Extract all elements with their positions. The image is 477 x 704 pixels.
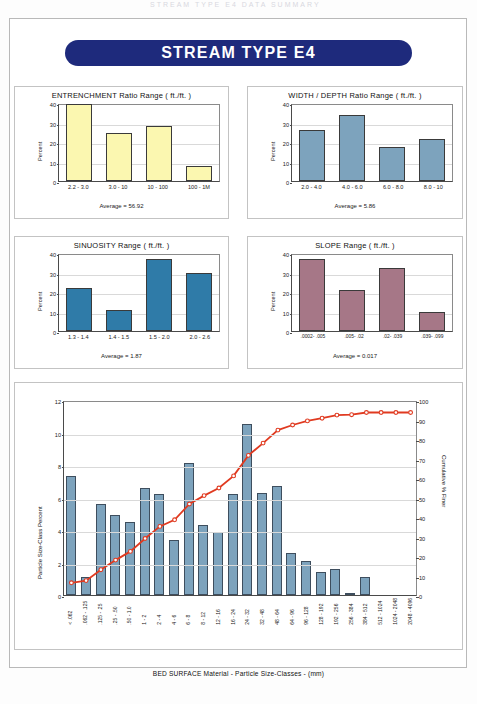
x-axis-tick-label: .25 - .50 bbox=[112, 598, 118, 625]
x-axis-tick-label: 384 - 512 bbox=[362, 598, 368, 625]
y-axis-tick bbox=[62, 500, 65, 501]
y2-axis-tick bbox=[416, 402, 419, 403]
y2-axis-tick bbox=[416, 480, 419, 481]
x-label-cell: 8 - 12 bbox=[196, 598, 211, 625]
bed-surface-x-labels: < .062.062 - .125.125 - .25.25 - .50.50 … bbox=[63, 598, 417, 625]
bar-group bbox=[59, 255, 219, 331]
chart-panel-entrenchment: ENTRENCHMENT Ratio Range ( ft./ft. )0102… bbox=[14, 86, 229, 219]
x-axis-tick-label: 8 - 12 bbox=[200, 598, 206, 625]
y2-axis-tick bbox=[416, 461, 419, 462]
x-axis-tick-label: 1 - 2 bbox=[141, 598, 147, 625]
bar bbox=[106, 310, 132, 331]
x-label-cell: 1024 - 2048 bbox=[388, 598, 403, 625]
x-axis-tick-label: 100 - 1M bbox=[188, 184, 210, 190]
y-axis-title: Percent bbox=[37, 142, 43, 161]
y-axis-tick bbox=[62, 467, 65, 468]
bar bbox=[146, 126, 172, 181]
average-label: Average = 56.92 bbox=[15, 203, 228, 209]
chart-title: ENTRENCHMENT Ratio Range ( ft./ft. ) bbox=[15, 91, 228, 100]
chart-panel-bed-surface: 0246810120102030405060708090100 < .062.0… bbox=[14, 382, 463, 650]
y-axis-tick-label: 20 bbox=[283, 141, 289, 147]
x-axis-tick-label: 3.0 - 10 bbox=[108, 184, 127, 190]
y2-axis-tick-label: 20 bbox=[419, 555, 425, 561]
grid-line bbox=[64, 532, 416, 533]
grid-line bbox=[64, 500, 416, 501]
chart-title: SINUOSITY Range ( ft./ft. ) bbox=[15, 241, 228, 250]
x-label-cell: 32 - 48 bbox=[255, 598, 270, 625]
chart-panel-sinuosity: SINUOSITY Range ( ft./ft. )010203040Perc… bbox=[14, 236, 229, 369]
y2-axis-tick bbox=[416, 578, 419, 579]
x-label-cell: 12 - 16 bbox=[211, 598, 226, 625]
bar bbox=[379, 268, 405, 331]
y-axis-title: Percent bbox=[270, 292, 276, 311]
y2-axis-tick bbox=[416, 558, 419, 559]
y-axis-tick-label: 40 bbox=[50, 102, 56, 108]
stream-type-banner: STREAM TYPE E4 bbox=[65, 40, 412, 66]
x-axis-tick-label: 24 - 32 bbox=[244, 598, 250, 625]
x-label-cell: .125 - .25 bbox=[93, 598, 108, 625]
bar bbox=[299, 130, 325, 181]
x-axis-tick-label: 32 - 48 bbox=[259, 598, 265, 625]
x-label-cell: 1 - 2 bbox=[137, 598, 152, 625]
grid-line bbox=[64, 435, 416, 436]
page-title: STREAM TYPE E4 bbox=[161, 44, 316, 62]
x-axis-tick-label: 4 - 6 bbox=[171, 598, 177, 625]
x-axis-tick-label: 6.0 - 8.0 bbox=[383, 184, 404, 190]
y2-axis-tick-label: 90 bbox=[419, 419, 425, 425]
x-axis-tick-label: 8.0 - 10 bbox=[424, 184, 443, 190]
x-axis-tick-label: 12 - 16 bbox=[215, 598, 221, 625]
y-axis-tick-label: 40 bbox=[283, 102, 289, 108]
bar bbox=[339, 115, 365, 181]
y2-axis-tick bbox=[416, 539, 419, 540]
y2-axis-tick-label: 40 bbox=[419, 516, 425, 522]
x-axis-labels: .0002- .005.005- .02.02- .039.039- .099 bbox=[291, 334, 453, 339]
y-axis-tick-label: 12 bbox=[55, 399, 61, 405]
y-axis-title: Percent bbox=[37, 292, 43, 311]
x-axis-tick-label: 10 - 100 bbox=[147, 184, 168, 190]
x-axis-tick-label: 1024 - 2048 bbox=[392, 598, 398, 625]
x-axis-tick-label: 256 - 384 bbox=[348, 598, 354, 625]
x-axis-tick-label: 2.2 - 3.0 bbox=[68, 184, 89, 190]
x-axis-tick-label: .039- .099 bbox=[421, 334, 443, 339]
bed-surface-x-axis-title: BED SURFACE Material - Particle Size-Cla… bbox=[15, 670, 462, 677]
x-axis-tick-label: 2.0 - 4.0 bbox=[301, 184, 322, 190]
bar bbox=[339, 290, 365, 331]
x-label-cell: 192 - 256 bbox=[329, 598, 344, 625]
y2-axis-tick-label: 80 bbox=[419, 438, 425, 444]
bar bbox=[419, 312, 445, 331]
y-axis-tick-label: 30 bbox=[50, 272, 56, 278]
y-axis-tick-label: 10 bbox=[283, 161, 289, 167]
x-axis-tick-label: 4.0 - 6.0 bbox=[342, 184, 363, 190]
bar bbox=[186, 166, 212, 181]
bar bbox=[186, 273, 212, 332]
x-label-cell: .25 - .50 bbox=[107, 598, 122, 625]
x-axis-tick-label: 1.4 - 1.5 bbox=[108, 334, 129, 340]
bed-surface-y-axis-title: Particle Size-Class Percent bbox=[37, 506, 43, 579]
y2-axis-tick-label: 0 bbox=[419, 594, 422, 600]
y2-axis-tick-label: 10 bbox=[419, 575, 425, 581]
x-label-cell: 16 - 24 bbox=[225, 598, 240, 625]
x-label-cell: 512 - 1024 bbox=[373, 598, 388, 625]
chart-panel-width-depth: WIDTH / DEPTH Ratio Range ( ft./ft. )010… bbox=[247, 86, 463, 219]
bar bbox=[419, 139, 445, 181]
y-axis-tick-label: 20 bbox=[50, 291, 56, 297]
y2-axis-tick bbox=[416, 500, 419, 501]
bar bbox=[379, 147, 405, 182]
y2-axis-tick-label: 100 bbox=[419, 399, 428, 405]
bed-surface-y2-axis-title: Cumulative % Finer bbox=[441, 455, 447, 507]
x-axis-tick-label: 16 - 24 bbox=[230, 598, 236, 625]
x-axis-tick-label: 512 - 1024 bbox=[377, 598, 383, 625]
bar bbox=[106, 133, 132, 181]
x-axis-labels: 1.3 - 1.41.4 - 1.51.5 - 2.02.0 - 2.6 bbox=[58, 334, 220, 340]
y2-axis-tick-label: 30 bbox=[419, 536, 425, 542]
y-axis-tick bbox=[62, 402, 65, 403]
x-axis-tick-label: .50 - 1.0 bbox=[126, 598, 132, 625]
y2-axis-tick-label: 70 bbox=[419, 458, 425, 464]
grid-line bbox=[64, 467, 416, 468]
bar-group bbox=[292, 105, 452, 181]
x-label-cell: 64 - 96 bbox=[284, 598, 299, 625]
bar bbox=[66, 288, 92, 331]
x-axis-tick-label: 1.3 - 1.4 bbox=[68, 334, 89, 340]
y2-axis-tick bbox=[416, 519, 419, 520]
y-axis-tick-label: 20 bbox=[50, 141, 56, 147]
